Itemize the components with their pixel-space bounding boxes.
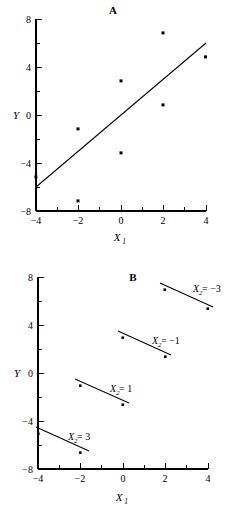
figure-container: A 8 4 0 −4 −8 — [0, 0, 240, 515]
panel-a-yticklabel-8: 8 — [26, 14, 31, 25]
panel-a-yticklabel-4: 4 — [26, 62, 31, 73]
panel-a-svg: A 8 4 0 −4 −8 — [0, 0, 240, 245]
panel-b-title: B — [129, 271, 137, 283]
panel-b-xticklabel-neg2: −2 — [75, 473, 86, 484]
panel-b-series-x2-1: X 2 = 1 — [75, 379, 132, 406]
datapoint — [122, 403, 125, 406]
datapoint — [162, 103, 165, 106]
panel-b-yticklabel-neg8: −8 — [22, 464, 33, 475]
panel-b-series-x2-neg1: X 2 = −1 — [118, 331, 180, 358]
panel-b-yticklabel-0: 0 — [28, 368, 33, 379]
panel-a-yticklabel-neg4: −4 — [20, 158, 31, 169]
panel-a: A 8 4 0 −4 −8 — [0, 0, 240, 245]
datapoint — [204, 55, 207, 58]
svg-text:= −3: = −3 — [202, 283, 221, 294]
panel-b-yticklabel-neg4: −4 — [22, 416, 33, 427]
panel-b-series-x2-neg3: X 2 = −3 — [160, 283, 221, 310]
panel-a-fit-line — [36, 43, 206, 187]
panel-a-yticklabel-neg8: −8 — [20, 206, 31, 217]
panel-a-xticklabel-neg2: −2 — [73, 215, 84, 226]
datapoint — [77, 199, 80, 202]
panel-b-svg: B 8 4 0 −4 −8 — [0, 245, 240, 515]
datapoint — [164, 288, 167, 291]
datapoint — [79, 384, 82, 387]
datapoint — [122, 336, 125, 339]
panel-a-x-major-ticks — [36, 205, 206, 211]
svg-text:1: 1 — [124, 497, 128, 506]
svg-text:1: 1 — [122, 237, 126, 245]
datapoint — [120, 79, 123, 82]
panel-b-xticklabel-neg4: −4 — [33, 473, 44, 484]
datapoint — [162, 31, 165, 34]
panel-a-yticklabel-0: 0 — [26, 110, 31, 121]
panel-a-title: A — [109, 4, 117, 16]
panel-b-series-x2-3: X 2 = 3 — [36, 427, 90, 454]
panel-b-xticklabel-2: 2 — [163, 473, 168, 484]
datapoint — [77, 127, 80, 130]
svg-text:X: X — [113, 231, 122, 243]
datapoint — [37, 432, 40, 435]
panel-b-yticklabel-8: 8 — [28, 272, 33, 283]
datapoint — [34, 175, 37, 178]
panel-a-y-axis-label: Y — [13, 109, 21, 121]
svg-text:X: X — [115, 491, 124, 503]
panel-a-xticklabel-4: 4 — [204, 215, 209, 226]
panel-b-y-major-ticks — [38, 277, 44, 469]
datapoint — [120, 151, 123, 154]
panel-b-y-axis-label: Y — [14, 367, 22, 379]
svg-text:= 3: = 3 — [77, 431, 90, 442]
panel-b: B 8 4 0 −4 −8 — [0, 245, 240, 515]
panel-a-x-axis-label: X 1 — [113, 231, 126, 245]
svg-text:= 1: = 1 — [119, 383, 132, 394]
panel-b-x-axis-label: X 1 — [115, 491, 128, 506]
panel-b-yticklabel-4: 4 — [28, 320, 33, 331]
svg-text:= −1: = −1 — [161, 335, 180, 346]
datapoint — [207, 307, 210, 310]
panel-b-xticklabel-0: 0 — [121, 473, 126, 484]
panel-a-datapoints — [34, 31, 207, 202]
panel-a-xticklabel-neg4: −4 — [31, 215, 42, 226]
panel-b-xticklabel-4: 4 — [206, 473, 211, 484]
datapoint — [79, 451, 82, 454]
panel-b-x-major-ticks — [38, 463, 208, 469]
datapoint — [164, 355, 167, 358]
panel-a-xticklabel-0: 0 — [119, 215, 124, 226]
panel-a-xticklabel-2: 2 — [161, 215, 166, 226]
